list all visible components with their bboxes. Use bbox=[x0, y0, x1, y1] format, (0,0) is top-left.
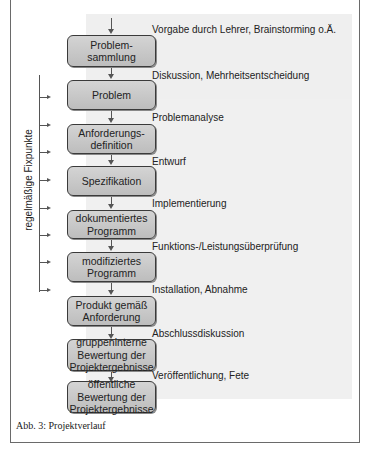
step-text: Projektergebnisse bbox=[69, 403, 153, 416]
step-text: modifiziertes bbox=[82, 255, 141, 268]
arrow-down-icon bbox=[108, 74, 114, 79]
step-text: Problem- bbox=[87, 39, 135, 52]
fixpoint-bracket-line bbox=[39, 75, 40, 292]
step-text: Bewertung der bbox=[69, 349, 153, 362]
step-text: Bewertung der bbox=[69, 391, 153, 404]
transition-label: Veröffentlichung, Fete bbox=[152, 370, 249, 381]
step-text: definition bbox=[78, 139, 145, 152]
transition-label: Entwurf bbox=[152, 156, 186, 167]
step-text: Projektergebnisse bbox=[69, 361, 153, 374]
step-text: öffentliche bbox=[69, 378, 153, 391]
transition-label: Implementierung bbox=[152, 198, 226, 209]
step-text: Problem bbox=[92, 89, 131, 102]
transition-label: Diskussion, Mehrheitsentscheidung bbox=[152, 70, 309, 81]
step-text: Spezifikation bbox=[82, 175, 142, 188]
step-box-dokumentiertes-programm: dokumentiertesProgramm bbox=[67, 210, 156, 239]
arrow-down-icon bbox=[108, 290, 114, 295]
step-box-gruppeninterne-bewertung: gruppeninterneBewertung derProjektergebn… bbox=[67, 339, 156, 371]
arrow-right-icon bbox=[39, 152, 48, 153]
step-text: Produkt gemäß bbox=[76, 299, 148, 312]
transition-label: Funktions-/Leistungsüberprüfung bbox=[152, 241, 298, 252]
side-label: regelmäßige Fixpunkte bbox=[23, 129, 34, 231]
step-text: Programm bbox=[76, 225, 148, 238]
arrow-down-icon bbox=[108, 29, 114, 34]
step-text: Programm bbox=[82, 267, 141, 280]
arrow-right-icon bbox=[39, 180, 48, 181]
arrow-right-icon bbox=[39, 97, 48, 98]
arrow-right-icon bbox=[39, 208, 48, 209]
arrow-right-icon bbox=[39, 290, 48, 291]
arrow-down-icon bbox=[108, 160, 114, 165]
arrow-right-icon bbox=[39, 262, 48, 263]
figure-caption: Abb. 3: Projektverlauf bbox=[16, 420, 106, 431]
arrow-down-icon bbox=[108, 246, 114, 251]
transition-label: Vorgabe durch Lehrer, Brainstorming o.Ä. bbox=[152, 24, 336, 35]
step-text: Anforderungs- bbox=[78, 127, 145, 140]
step-box-problemsammlung: Problem-sammlung bbox=[67, 35, 156, 67]
step-text: gruppeninterne bbox=[69, 336, 153, 349]
step-box-spezifikation: Spezifikation bbox=[67, 166, 156, 196]
step-box-oeffentliche-bewertung: öffentlicheBewertung derProjektergebniss… bbox=[67, 381, 156, 413]
step-text: sammlung bbox=[87, 51, 135, 64]
arrow-right-icon bbox=[39, 125, 48, 126]
step-text: dokumentiertes bbox=[76, 212, 148, 225]
step-box-produkt-gemaess-anforderung: Produkt gemäßAnforderung bbox=[67, 296, 156, 326]
arrow-down-icon bbox=[108, 118, 114, 123]
transition-label: Installation, Abnahme bbox=[152, 284, 248, 295]
step-text: Anforderung bbox=[76, 311, 148, 324]
step-box-modifiziertes-programm: modifiziertesProgramm bbox=[67, 252, 156, 282]
arrow-right-icon bbox=[39, 235, 48, 236]
arrow-down-icon bbox=[108, 204, 114, 209]
step-box-anforderungsdefinition: Anforderungs-definition bbox=[67, 124, 156, 154]
transition-label: Abschlussdiskussion bbox=[152, 328, 244, 339]
step-box-problem: Problem bbox=[67, 80, 156, 110]
transition-label: Problemanalyse bbox=[152, 112, 224, 123]
